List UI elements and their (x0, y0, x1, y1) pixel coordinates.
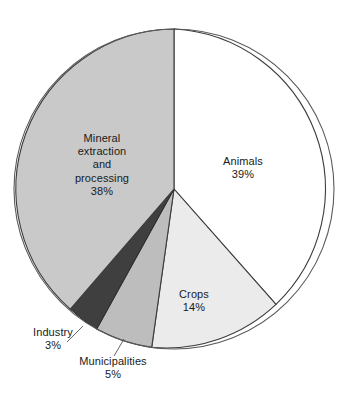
slice-label-mineral-line1: Mineral (54, 132, 150, 145)
slice-label-municipalities: Municipalities 5% (61, 355, 165, 381)
slice-label-mineral-value: 38% (54, 185, 150, 198)
leader-line-municipalities (114, 339, 124, 356)
slice-label-industry-name: Industry (22, 326, 84, 339)
slice-label-crops-name: Crops (161, 288, 227, 301)
slice-label-animals: Animals 39% (206, 155, 280, 181)
pie-chart: Animals 39% Crops 14% Mineral extraction… (0, 0, 353, 399)
slice-label-mineral-line3: and (54, 158, 150, 171)
slice-label-animals-value: 39% (206, 168, 280, 181)
slice-label-municipalities-name: Municipalities (61, 355, 165, 368)
slice-label-crops-value: 14% (161, 301, 227, 314)
slice-label-industry-value: 3% (22, 339, 84, 352)
slice-label-mineral-line2: extraction (54, 145, 150, 158)
slice-label-industry: Industry 3% (22, 326, 84, 352)
slice-label-crops: Crops 14% (161, 288, 227, 314)
slice-label-municipalities-value: 5% (61, 368, 165, 381)
slice-label-mineral-extraction: Mineral extraction and processing 38% (54, 132, 150, 198)
slice-label-mineral-line4: processing (54, 172, 150, 185)
slice-label-animals-name: Animals (206, 155, 280, 168)
